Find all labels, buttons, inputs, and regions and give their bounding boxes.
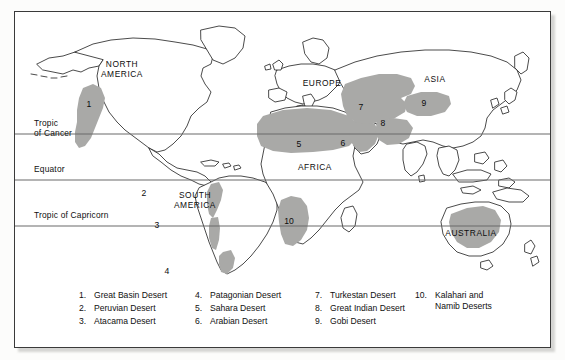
legend-num-6: 6.	[195, 316, 210, 327]
continent-label-north-america: NORTH AMERICA	[87, 59, 157, 79]
legend-label-5: Sahara Desert	[210, 303, 265, 314]
map-marker-8: 8	[377, 119, 389, 128]
legend-num-7: 7.	[315, 290, 330, 301]
legend-column-4: 10. Kalahari and Namib Deserts	[415, 290, 492, 314]
north-america-line2: AMERICA	[101, 69, 143, 79]
legend-num-10: 10.	[415, 290, 435, 301]
map-marker-3: 3	[151, 221, 163, 230]
legend-column-2: 4. Patagonian Desert 5. Sahara Desert 6.…	[195, 290, 281, 329]
legend-item-4: 4. Patagonian Desert	[195, 290, 281, 301]
tropic-of-cancer-label-line2: of Cancer	[34, 128, 72, 138]
legend-item-5: 5. Sahara Desert	[195, 303, 281, 314]
legend-num-1: 1.	[79, 290, 94, 301]
tropic-of-cancer-label: Tropic of Cancer	[34, 118, 72, 138]
legend-label-9: Gobi Desert	[330, 316, 376, 327]
legend-num-8: 8.	[315, 303, 330, 314]
scan-page: .land { fill:#ffffff; stroke:#2b2b2b; st…	[0, 0, 565, 360]
world-map: .land { fill:#ffffff; stroke:#2b2b2b; st…	[15, 12, 550, 284]
map-marker-2: 2	[138, 189, 150, 198]
legend-num-4: 4.	[195, 290, 210, 301]
legend-column-3: 7. Turkestan Desert 8. Great Indian Dese…	[315, 290, 405, 329]
south-america-line1: SOUTH	[179, 190, 211, 200]
map-marker-1: 1	[83, 100, 95, 109]
legend-label-10-line2: Namib Deserts	[435, 301, 492, 312]
map-marker-10: 10	[283, 217, 295, 226]
legend-item-6: 6. Arabian Desert	[195, 316, 281, 327]
equator-label: Equator	[34, 164, 65, 174]
legend-num-2: 2.	[79, 303, 94, 314]
legend-item-2: 2. Peruvian Desert	[79, 303, 167, 314]
legend-label-10-line1: Kalahari and	[435, 290, 483, 300]
continent-label-australia: AUSTRALIA	[439, 228, 503, 238]
legend-item-3: 3. Atacama Desert	[79, 316, 167, 327]
legend-label-4: Patagonian Desert	[210, 290, 281, 301]
map-marker-9: 9	[418, 99, 430, 108]
legend-item-10: 10. Kalahari and Namib Deserts	[415, 290, 492, 313]
legend-label-2: Peruvian Desert	[94, 303, 156, 314]
legend-num-3: 3.	[79, 316, 94, 327]
legend-label-6: Arabian Desert	[210, 316, 267, 327]
continent-label-asia: ASIA	[413, 74, 457, 84]
legend-item-8: 8. Great Indian Desert	[315, 303, 405, 314]
north-america-line1: NORTH	[106, 59, 138, 69]
legend-num-9: 9.	[315, 316, 330, 327]
legend-item-9: 9. Gobi Desert	[315, 316, 405, 327]
legend-num-5: 5.	[195, 303, 210, 314]
continent-label-africa: AFRICA	[287, 162, 343, 172]
tropic-of-cancer-label-line1: Tropic	[34, 118, 58, 128]
map-marker-5: 5	[293, 140, 305, 149]
legend-label-10: Kalahari and Namib Deserts	[435, 290, 492, 313]
map-marker-7: 7	[355, 103, 367, 112]
legend-label-7: Turkestan Desert	[330, 290, 396, 301]
legend-item-1: 1. Great Basin Desert	[79, 290, 167, 301]
legend-item-7: 7. Turkestan Desert	[315, 290, 405, 301]
tropic-of-capricorn-label: Tropic of Capricorn	[34, 210, 109, 220]
legend-label-1: Great Basin Desert	[94, 290, 167, 301]
figure-frame: .land { fill:#ffffff; stroke:#2b2b2b; st…	[14, 11, 551, 348]
legend-label-3: Atacama Desert	[94, 316, 156, 327]
legend-label-8: Great Indian Desert	[330, 303, 405, 314]
continent-label-south-america: SOUTH AMERICA	[161, 190, 229, 210]
continent-label-europe: EUROPE	[294, 78, 350, 88]
legend-column-1: 1. Great Basin Desert 2. Peruvian Desert…	[79, 290, 167, 329]
legend: 1. Great Basin Desert 2. Peruvian Desert…	[15, 290, 550, 346]
world-map-svg: .land { fill:#ffffff; stroke:#2b2b2b; st…	[15, 12, 550, 284]
map-marker-4: 4	[161, 267, 173, 276]
south-america-line2: AMERICA	[174, 200, 216, 210]
map-marker-6: 6	[337, 139, 349, 148]
